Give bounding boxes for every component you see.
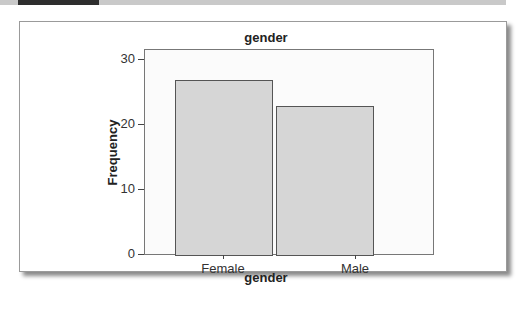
y-tick-label: 30 xyxy=(105,51,135,66)
y-tick-0 xyxy=(138,254,144,255)
y-tick-10 xyxy=(138,189,144,190)
y-tick-20 xyxy=(138,124,144,125)
plot-area xyxy=(144,49,434,255)
x-tick-female xyxy=(223,255,224,259)
y-tick-30 xyxy=(138,59,144,60)
x-axis-title: gender xyxy=(0,270,532,285)
chart-title: gender xyxy=(0,30,532,45)
y-axis-title: Frequency xyxy=(105,108,120,198)
y-tick-label: 0 xyxy=(105,246,135,261)
bar-male xyxy=(276,106,374,257)
bar-female xyxy=(175,80,273,257)
header-bar-accent xyxy=(18,0,99,5)
x-tick-male xyxy=(355,255,356,259)
